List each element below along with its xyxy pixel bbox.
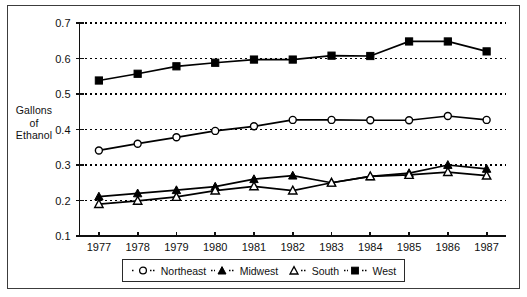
- legend-item-midwest: Midwest: [210, 265, 279, 277]
- y-axis: [76, 23, 84, 236]
- x-tick-label: 1982: [281, 241, 305, 253]
- x-tick-label: 1983: [319, 241, 343, 253]
- y-tick-labels: 0.10.20.30.40.50.60.7: [55, 17, 70, 242]
- legend-item-south: South: [282, 265, 339, 277]
- legend-label-west: West: [372, 265, 397, 277]
- x-tick-label: 1977: [87, 241, 111, 253]
- legend-label-south: South: [311, 265, 339, 277]
- y-tick-label: 0.3: [55, 159, 70, 171]
- x-tick-label: 1978: [125, 241, 149, 253]
- series-northeast: [95, 113, 490, 154]
- y-tick-label: 0.5: [55, 88, 70, 100]
- x-tick-label: 1980: [203, 241, 227, 253]
- legend-item-northeast: Northeast: [131, 265, 207, 277]
- legend-item-west: West: [343, 265, 397, 277]
- open-triangle-icon: [282, 265, 308, 276]
- filled-square-icon: [343, 265, 369, 276]
- y-tick-label: 0.7: [55, 17, 70, 29]
- x-tick-label: 1981: [242, 241, 266, 253]
- x-tick-label: 1985: [397, 241, 421, 253]
- y-tick-label: 0.2: [55, 195, 70, 207]
- x-tick-label: 1984: [358, 241, 382, 253]
- x-tick-label: 1979: [164, 241, 188, 253]
- y-tick-label: 0.6: [55, 53, 70, 65]
- filled-triangle-icon: [210, 265, 236, 276]
- chart-container: Gallons of Ethanol 0.10.20.30.40.50.60.7…: [0, 0, 527, 297]
- chart-legend: Northeast Midwest South West: [122, 259, 405, 282]
- data-series-group: [95, 38, 491, 208]
- x-axis: [80, 232, 507, 236]
- y-tick-label: 0.4: [55, 124, 70, 136]
- legend-label-midwest: Midwest: [239, 265, 279, 277]
- x-tick-labels: 1977197819791980198119821983198419851986…: [87, 241, 499, 253]
- y-tick-label: 0.1: [55, 230, 70, 242]
- x-tick-label: 1987: [474, 241, 498, 253]
- plot-area: 0.10.20.30.40.50.60.7 197719781979198019…: [0, 0, 527, 297]
- series-west: [95, 38, 490, 84]
- open-circle-icon: [131, 265, 157, 276]
- legend-label-northeast: Northeast: [160, 265, 207, 277]
- x-tick-label: 1986: [436, 241, 460, 253]
